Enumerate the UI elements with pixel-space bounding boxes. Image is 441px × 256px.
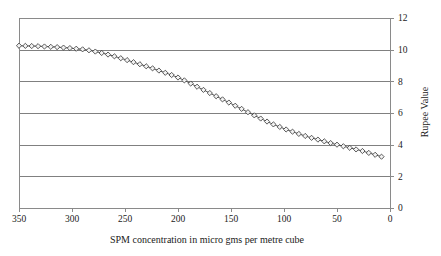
x-axis-title: SPM concentration in micro gms per metre… <box>110 234 305 245</box>
y-axis-title: Rupee Value <box>419 86 430 137</box>
y-tick-label-12: 12 <box>398 13 408 23</box>
data-point-marker <box>277 124 282 129</box>
data-point-marker <box>220 97 225 102</box>
data-point-marker <box>233 103 238 108</box>
x-tick-label-300: 300 <box>65 214 80 224</box>
data-point-marker <box>379 154 384 159</box>
y-tick-label-6: 6 <box>398 108 403 118</box>
data-point-marker <box>194 84 199 89</box>
data-point-marker <box>48 44 53 49</box>
data-point-marker <box>373 152 378 157</box>
x-tick-labels: 350300250200150100500 <box>12 214 393 224</box>
data-point-marker <box>131 60 136 65</box>
data-point-marker <box>290 129 295 134</box>
series-line-0 <box>19 46 382 157</box>
data-point-marker <box>309 135 314 140</box>
data-point-marker <box>315 137 320 142</box>
data-point-marker <box>112 54 117 59</box>
y-tick-label-0: 0 <box>398 203 403 213</box>
data-point-marker <box>296 131 301 136</box>
data-point-marker <box>61 45 66 50</box>
data-point-marker <box>239 106 244 111</box>
x-tick-label-250: 250 <box>118 214 133 224</box>
data-point-marker <box>16 43 21 48</box>
x-tick-label-200: 200 <box>171 214 186 224</box>
data-point-marker <box>347 145 352 150</box>
data-point-marker <box>201 87 206 92</box>
data-series-line <box>19 46 382 157</box>
data-point-marker <box>42 44 47 49</box>
data-point-marker <box>284 127 289 132</box>
data-point-marker <box>360 148 365 153</box>
data-point-marker <box>271 122 276 127</box>
data-point-marker <box>29 43 34 48</box>
x-tick-label-50: 50 <box>332 214 342 224</box>
data-point-marker <box>303 133 308 138</box>
data-point-marker <box>93 49 98 54</box>
data-point-marker <box>334 142 339 147</box>
data-point-marker <box>105 52 110 57</box>
y-tick-label-10: 10 <box>398 45 408 55</box>
data-series-markers <box>16 43 384 159</box>
data-point-marker <box>169 72 174 77</box>
x-tick-label-350: 350 <box>12 214 27 224</box>
data-point-marker <box>80 47 85 52</box>
data-point-marker <box>67 45 72 50</box>
data-point-marker <box>150 66 155 71</box>
y-tick-label-4: 4 <box>398 140 403 150</box>
chart-container: 350300250200150100500 024681012 SPM conc… <box>0 0 441 256</box>
data-point-marker <box>207 90 212 95</box>
data-point-marker <box>245 110 250 115</box>
y-tick-label-2: 2 <box>398 172 403 182</box>
data-point-marker <box>118 56 123 61</box>
data-point-marker <box>125 58 130 63</box>
data-point-marker <box>99 50 104 55</box>
data-point-marker <box>353 147 358 152</box>
data-point-marker <box>35 44 40 49</box>
data-point-marker <box>144 64 149 69</box>
data-point-marker <box>156 68 161 73</box>
data-point-marker <box>214 94 219 99</box>
data-point-marker <box>264 119 269 124</box>
gridlines-group <box>19 19 390 209</box>
data-point-marker <box>322 139 327 144</box>
y-tick-labels: 024681012 <box>398 13 408 213</box>
x-tick-label-150: 150 <box>224 214 239 224</box>
data-point-marker <box>86 48 91 53</box>
x-tick-label-0: 0 <box>388 214 393 224</box>
data-point-marker <box>328 140 333 145</box>
x-tick-label-100: 100 <box>277 214 292 224</box>
data-point-marker <box>55 45 60 50</box>
data-point-marker <box>137 62 142 67</box>
data-point-marker <box>258 116 263 121</box>
data-point-marker <box>366 150 371 155</box>
data-point-marker <box>175 75 180 80</box>
data-point-marker <box>182 78 187 83</box>
y-tick-label-8: 8 <box>398 77 403 87</box>
data-point-marker <box>341 144 346 149</box>
data-point-marker <box>226 100 231 105</box>
data-point-marker <box>23 43 28 48</box>
chart-plot: 350300250200150100500 024681012 SPM conc… <box>0 0 441 256</box>
data-point-marker <box>163 70 168 75</box>
